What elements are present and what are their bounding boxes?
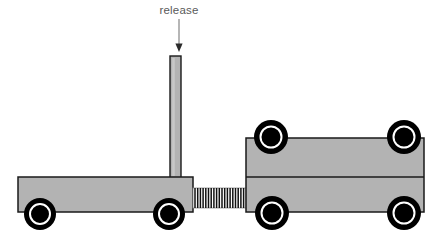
- release-label: release: [159, 4, 198, 16]
- release-post-highlight: [172, 58, 175, 176]
- spring-coupling: [193, 188, 246, 208]
- release-post-shaft: [170, 56, 181, 178]
- release-post: [170, 56, 181, 178]
- right-cart-bottom-right-wheel: [387, 196, 421, 230]
- left-cart-front-wheel: [153, 198, 185, 230]
- right-cart-top-right-wheel: [387, 120, 421, 154]
- left-cart-rear-wheel: [24, 198, 56, 230]
- physics-diagram: release: [0, 0, 439, 243]
- right-cart-top-left-wheel: [254, 120, 288, 154]
- diagram-canvas: release: [0, 0, 439, 243]
- right-cart-bottom-left-wheel: [255, 196, 289, 230]
